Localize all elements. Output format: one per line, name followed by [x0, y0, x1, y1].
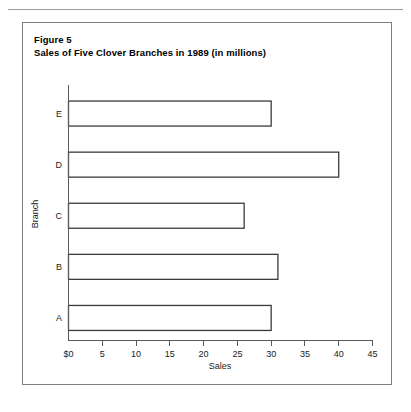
figure-border-box — [22, 22, 392, 385]
figure-number: Figure 5 — [34, 33, 266, 46]
page-top-rule — [8, 9, 403, 10]
figure-caption: Figure 5 Sales of Five Clover Branches i… — [34, 33, 266, 59]
page-canvas: Figure 5 Sales of Five Clover Branches i… — [0, 0, 411, 412]
figure-title: Sales of Five Clover Branches in 1989 (i… — [34, 46, 266, 59]
